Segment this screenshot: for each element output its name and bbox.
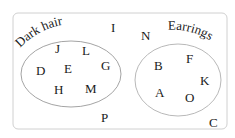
element-J: J	[55, 41, 60, 56]
element-G: G	[101, 58, 110, 73]
element-H: H	[54, 82, 63, 97]
element-F: F	[186, 51, 193, 66]
element-N: N	[141, 28, 151, 43]
element-M: M	[85, 81, 97, 96]
element-O: O	[185, 90, 194, 105]
element-I: I	[111, 20, 115, 35]
venn-diagram: Dark hair Earrings J L D E G H M I N P C…	[0, 0, 235, 138]
element-L: L	[82, 43, 90, 58]
element-D: D	[36, 63, 45, 78]
element-P: P	[101, 110, 108, 125]
element-A: A	[155, 85, 165, 100]
earrings-label: Earrings	[168, 18, 216, 43]
element-C: C	[209, 115, 218, 130]
element-K: K	[200, 73, 210, 88]
element-E: E	[64, 61, 72, 76]
element-B: B	[154, 58, 163, 73]
